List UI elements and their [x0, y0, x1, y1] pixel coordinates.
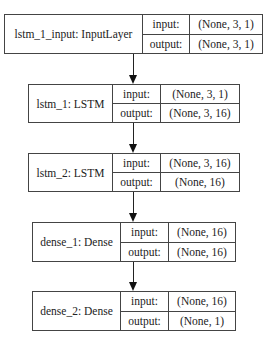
node-dense-2: dense_2: Dense input: (None, 16) output:… [32, 291, 236, 331]
input-label: input: [121, 223, 169, 242]
node-io-table: input: (None, 3, 16) output: (None, 16) [113, 154, 239, 191]
input-row: input: (None, 3, 1) [113, 85, 239, 103]
node-io-table: input: (None, 16) output: (None, 1) [121, 292, 235, 330]
edge-line [133, 192, 134, 214]
input-shape: (None, 16) [169, 292, 235, 311]
arrow-down-icon [129, 75, 137, 84]
node-name: lstm_1_input: InputLayer [5, 15, 143, 53]
arrow-down-icon [129, 213, 137, 222]
output-shape: (None, 3, 16) [161, 104, 239, 122]
node-name: dense_2: Dense [33, 292, 121, 330]
output-label: output: [143, 35, 190, 54]
output-shape: (None, 1) [169, 312, 235, 331]
output-row: output: (None, 16) [113, 172, 239, 191]
node-lstm-1-input: lstm_1_input: InputLayer input: (None, 3… [4, 14, 263, 54]
output-row: output: (None, 1) [121, 311, 235, 331]
input-label: input: [113, 154, 161, 172]
node-lstm-1: lstm_1: LSTM input: (None, 3, 1) output:… [28, 84, 240, 123]
node-io-table: input: (None, 3, 1) output: (None, 3, 16… [113, 85, 239, 122]
input-row: input: (None, 16) [121, 292, 235, 311]
input-shape: (None, 3, 1) [190, 15, 262, 34]
edge-line [133, 54, 134, 76]
input-label: input: [121, 292, 169, 311]
arrow-down-icon [129, 144, 137, 153]
node-io-table: input: (None, 16) output: (None, 16) [121, 223, 235, 261]
node-io-table: input: (None, 3, 1) output: (None, 3, 1) [143, 15, 262, 53]
edge-line [133, 262, 134, 283]
output-shape: (None, 16) [169, 243, 235, 262]
output-row: output: (None, 3, 16) [113, 103, 239, 122]
output-row: output: (None, 16) [121, 242, 235, 262]
edge-line [133, 123, 134, 145]
input-shape: (None, 16) [169, 223, 235, 242]
node-dense-1: dense_1: Dense input: (None, 16) output:… [32, 222, 236, 262]
output-row: output: (None, 3, 1) [143, 34, 262, 54]
node-name: lstm_1: LSTM [29, 85, 113, 122]
input-label: input: [113, 85, 161, 103]
output-label: output: [113, 104, 161, 122]
node-name: dense_1: Dense [33, 223, 121, 261]
input-label: input: [143, 15, 190, 34]
input-shape: (None, 3, 16) [161, 154, 239, 172]
output-label: output: [121, 243, 169, 262]
node-lstm-2: lstm_2: LSTM input: (None, 3, 16) output… [28, 153, 240, 192]
input-row: input: (None, 3, 16) [113, 154, 239, 172]
node-name: lstm_2: LSTM [29, 154, 113, 191]
output-label: output: [113, 173, 161, 191]
input-row: input: (None, 16) [121, 223, 235, 242]
output-label: output: [121, 312, 169, 331]
input-shape: (None, 3, 1) [161, 85, 239, 103]
output-shape: (None, 3, 1) [190, 35, 262, 54]
output-shape: (None, 16) [161, 173, 239, 191]
arrow-down-icon [129, 282, 137, 291]
input-row: input: (None, 3, 1) [143, 15, 262, 34]
